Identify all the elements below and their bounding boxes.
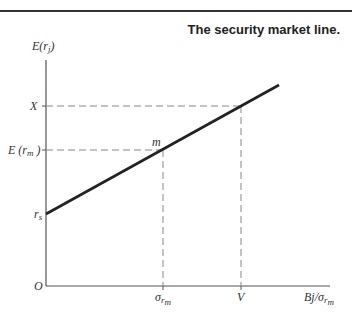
y-tick-erm-label: E (rm ) (7, 143, 41, 158)
y-axis-label: E(rj) (31, 39, 55, 54)
x-tick-v-label: V (237, 290, 246, 304)
security-market-line-diagram: E(rj) X E (rm ) rs O m σrm V Bj/σrm (0, 0, 352, 314)
origin-label: O (34, 279, 43, 293)
point-m-label: m (152, 135, 161, 149)
y-tick-rs-label: rs (34, 207, 43, 222)
x-tick-sigma-label: σrm (155, 290, 171, 307)
y-tick-x-label: X (29, 99, 38, 113)
x-axis-label: Bj/σrm (304, 290, 334, 307)
